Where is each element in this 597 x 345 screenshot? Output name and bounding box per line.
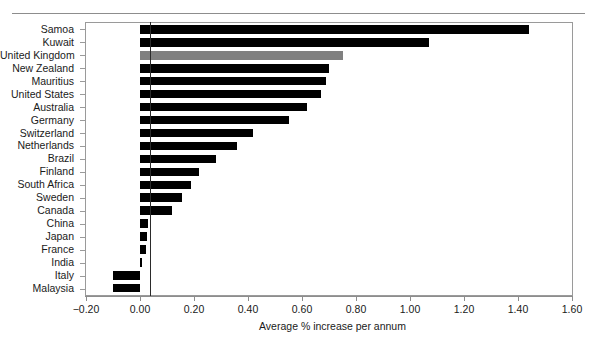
bar-france (140, 245, 146, 253)
category-label-canada: Canada (0, 204, 78, 217)
category-label-japan: Japan (0, 230, 78, 243)
bar-row (86, 75, 572, 88)
category-label-finland: Finland (0, 165, 78, 178)
bar-united-kingdom (140, 51, 343, 59)
bar-canada (140, 206, 172, 214)
category-label-sweden: Sweden (0, 191, 78, 204)
y-tick-3 (80, 68, 85, 69)
bar-row (86, 36, 572, 49)
y-tick-15 (80, 224, 85, 225)
bar-germany (140, 116, 289, 124)
bar-row (86, 49, 572, 62)
bar-row (86, 243, 572, 256)
bar-malaysia (113, 284, 140, 292)
bar-united-states (140, 90, 321, 98)
bar-samoa (140, 25, 529, 33)
bar-row (86, 23, 572, 36)
y-tick-14 (80, 211, 85, 212)
x-tick-label-8: 1.40 (508, 303, 528, 315)
y-tick-11 (80, 172, 85, 173)
x-tick-label-1: 0.00 (130, 303, 150, 315)
x-tick-label-9: 1.60 (562, 303, 582, 315)
category-label-france: France (0, 243, 78, 256)
x-tick-label-4: 0.60 (292, 303, 312, 315)
y-tick-9 (80, 146, 85, 147)
y-tick-4 (80, 81, 85, 82)
x-axis-title: Average % increase per annum (0, 320, 597, 332)
bar-brazil (140, 155, 216, 163)
category-label-china: China (0, 217, 78, 230)
x-tick-label-0: −0.20 (73, 303, 100, 315)
bar-row (86, 62, 572, 75)
bar-row (86, 152, 572, 165)
zero-reference-line (150, 22, 151, 296)
category-label-united-kingdom: United Kingdom (0, 49, 78, 62)
x-axis-title-text: Average % increase per annum (259, 320, 406, 332)
bar-sweden (140, 193, 182, 201)
bar-row (86, 88, 572, 101)
bar-italy (113, 271, 140, 279)
bar-row (86, 269, 572, 282)
x-tick-label-6: 1.00 (400, 303, 420, 315)
y-tick-20 (80, 289, 85, 290)
y-tick-19 (80, 276, 85, 277)
bar-china (140, 219, 148, 227)
category-label-germany: Germany (0, 114, 78, 127)
bar-row (86, 204, 572, 217)
y-tick-12 (80, 185, 85, 186)
bar-new-zealand (140, 64, 329, 72)
y-tick-7 (80, 120, 85, 121)
bar-row (86, 191, 572, 204)
bar-row (86, 127, 572, 140)
y-tick-6 (80, 107, 85, 108)
bar-south-africa (140, 181, 191, 189)
bar-chart-figure: SamoaKuwaitUnited KingdomNew ZealandMaur… (0, 0, 597, 345)
category-label-brazil: Brazil (0, 152, 78, 165)
y-tick-10 (80, 159, 85, 160)
category-label-australia: Australia (0, 101, 78, 114)
x-tick-label-3: 0.40 (238, 303, 258, 315)
category-label-italy: Italy (0, 269, 78, 282)
category-label-samoa: Samoa (0, 23, 78, 36)
x-tick-8 (518, 296, 519, 301)
x-tick-6 (410, 296, 411, 301)
bar-row (86, 139, 572, 152)
x-tick-9 (572, 296, 573, 301)
x-tick-0 (86, 296, 87, 301)
bar-australia (140, 103, 307, 111)
x-tick-4 (302, 296, 303, 301)
bar-row (86, 230, 572, 243)
bar-row (86, 282, 572, 295)
bar-row (86, 114, 572, 127)
x-tick-label-2: 0.20 (184, 303, 204, 315)
category-label-united-states: United States (0, 88, 78, 101)
bar-india (140, 258, 142, 266)
x-tick-1 (140, 296, 141, 301)
category-label-switzerland: Switzerland (0, 127, 78, 140)
y-tick-17 (80, 250, 85, 251)
bar-netherlands (140, 142, 237, 150)
bar-switzerland (140, 129, 253, 137)
bars-container (86, 23, 572, 295)
y-tick-0 (80, 29, 85, 30)
category-label-kuwait: Kuwait (0, 36, 78, 49)
y-tick-1 (80, 42, 85, 43)
category-label-netherlands: Netherlands (0, 139, 78, 152)
y-tick-2 (80, 55, 85, 56)
bar-kuwait (140, 38, 429, 46)
y-tick-5 (80, 94, 85, 95)
y-tick-13 (80, 198, 85, 199)
x-tick-label-5: 0.80 (346, 303, 366, 315)
x-tick-2 (194, 296, 195, 301)
bar-row (86, 178, 572, 191)
y-tick-8 (80, 133, 85, 134)
category-axis-labels: SamoaKuwaitUnited KingdomNew ZealandMaur… (0, 23, 78, 295)
bar-finland (140, 168, 199, 176)
bar-row (86, 101, 572, 114)
bar-japan (140, 232, 147, 240)
y-tick-18 (80, 263, 85, 264)
bar-row (86, 256, 572, 269)
x-tick-3 (248, 296, 249, 301)
x-tick-label-7: 1.20 (454, 303, 474, 315)
top-divider-rule (12, 13, 585, 14)
